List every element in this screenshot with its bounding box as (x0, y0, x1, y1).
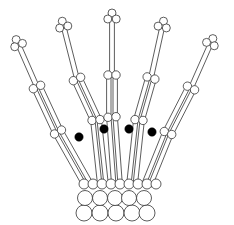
finger-5-tip-circle (203, 38, 211, 46)
finger-2-lower-joint-circle (88, 116, 96, 124)
finger-5-tip-circle (210, 42, 218, 50)
finger-1-tip-circle (18, 39, 26, 47)
finger-3-middle-bone-b (113, 75, 117, 117)
finger-1-distal-bone (17, 45, 39, 88)
carpal-bone-large (92, 205, 108, 221)
black-marker-dot (125, 125, 133, 133)
carpal-bone-small (106, 179, 116, 189)
finger-4-tip-circle (154, 22, 162, 30)
carpal-bone-medium (137, 191, 152, 206)
carpal-bone-large (124, 205, 140, 221)
finger-4-lower-joint-circle (131, 115, 139, 123)
finger-3-middle-bone-a (107, 75, 111, 117)
carpal-bone-large (76, 205, 92, 221)
finger-3-tip-circle (112, 15, 120, 23)
finger-3-tip-circle (104, 15, 112, 23)
carpal-bone-small (79, 179, 89, 189)
finger-3-upper-joint-circle (112, 71, 120, 79)
hand-skeleton-diagram (0, 0, 234, 225)
finger-4-upper-joint-circle (151, 75, 159, 83)
carpal-bone-large (108, 205, 124, 221)
carpal-bone-small (115, 179, 125, 189)
carpal-bone-small (97, 179, 107, 189)
finger-2-lower-joint-circle (96, 115, 104, 123)
finger-4-lower-joint-circle (139, 116, 147, 124)
carpal-bone-medium (93, 191, 108, 206)
carpal-bone-small (151, 179, 161, 189)
finger-4-upper-joint-circle (143, 73, 151, 81)
finger-3-upper-joint-circle (104, 71, 112, 79)
carpal-bone-medium (78, 191, 93, 206)
finger-1-upper-joint-circle (36, 81, 44, 89)
carpal-bone-medium (122, 191, 137, 206)
finger-2-tip-circle (56, 24, 64, 32)
finger-2-distal-bone (62, 27, 80, 79)
finger-2-upper-joint-circle (76, 73, 84, 81)
finger-2-tip-circle (64, 22, 72, 30)
carpal-bone-small (142, 179, 152, 189)
finger-5-distal-bone (189, 44, 212, 89)
finger-4-distal-bone (149, 27, 165, 78)
carpal-bone-small (124, 179, 134, 189)
finger-3-lower-joint-circle (112, 113, 120, 121)
diagram-canvas (0, 0, 234, 225)
finger-1-lower-joint-circle (57, 126, 65, 134)
carpal-bone-large (139, 205, 155, 221)
black-marker-dot (100, 125, 108, 133)
black-marker-dot (148, 128, 156, 136)
finger-1-tip-circle (11, 43, 19, 51)
finger-4-tip-circle (162, 24, 170, 32)
carpal-bone-small (88, 179, 98, 189)
carpal-bone-small (133, 179, 143, 189)
black-marker-dot (75, 133, 83, 141)
finger-3-distal-bone (110, 20, 115, 75)
finger-5-lower-joint-circle (168, 130, 176, 138)
finger-5-upper-joint-circle (190, 86, 198, 94)
finger-3-lower-joint-circle (104, 113, 112, 121)
carpal-bone-medium (108, 191, 123, 206)
